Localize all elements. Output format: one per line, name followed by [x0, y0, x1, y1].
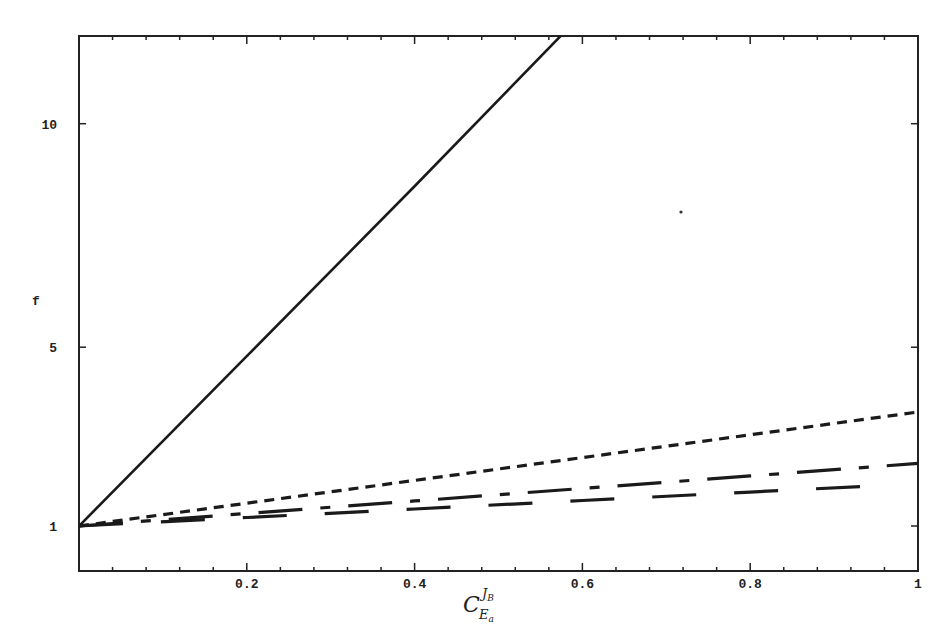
y-axis-label: f: [32, 294, 40, 309]
x-axis-label-sub: Ea: [478, 607, 494, 624]
x-axis-label: C Ea JB: [463, 586, 494, 624]
y-tick-label: 10: [41, 118, 57, 133]
axis-ticks: [79, 36, 918, 571]
plot-frame: [79, 36, 918, 571]
x-tick-label: 1: [914, 577, 922, 592]
y-tick-labels: 1510: [41, 118, 57, 535]
y-tick-label: 5: [49, 341, 57, 356]
x-axis-label-sup: JB: [479, 586, 494, 603]
series-solid: [79, 34, 562, 526]
series-short-dash: [79, 412, 918, 526]
x-tick-label: 0.6: [571, 577, 595, 592]
series-long-dash-dot: [79, 463, 918, 526]
line-chart: 0.20.40.60.81 1510 f C Ea JB: [0, 0, 943, 643]
x-tick-labels: 0.20.40.60.81: [235, 577, 922, 592]
y-tick-label: 1: [49, 520, 57, 535]
plot-border: [79, 36, 918, 571]
x-axis-label-main: C: [463, 592, 480, 617]
x-tick-label: 0.4: [403, 577, 427, 592]
x-tick-label: 0.8: [738, 577, 762, 592]
stray-dot: [679, 210, 682, 213]
series-long-dash: [79, 486, 876, 526]
x-tick-label: 0.2: [235, 577, 259, 592]
series-lines: [79, 34, 918, 526]
